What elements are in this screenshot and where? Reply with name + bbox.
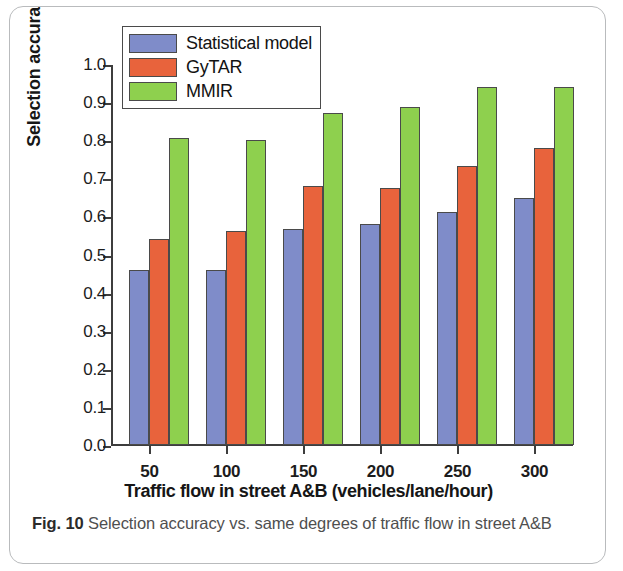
- figure-number: Fig. 10: [32, 514, 84, 532]
- x-axis-tick-label: 200: [367, 462, 394, 482]
- legend-item-label: GyTAR: [186, 57, 242, 78]
- y-axis-tick-label: 0.6: [83, 207, 106, 227]
- y-axis-tick-label: 0.0: [83, 436, 106, 456]
- bar-gytar-150: [303, 186, 323, 445]
- x-axis-tick-label: 100: [213, 462, 240, 482]
- chart-legend: Statistical modelGyTARMMIR: [122, 26, 321, 109]
- y-axis-tick-label: 0.9: [83, 93, 106, 113]
- figure-caption-text: Selection accuracy vs. same degrees of t…: [88, 514, 552, 532]
- y-axis-tick-label: 0.3: [83, 322, 106, 342]
- legend-swatch-icon: [129, 34, 177, 53]
- bar-mmir-200: [400, 107, 420, 445]
- bar-mmir-150: [323, 113, 343, 445]
- x-axis-tick-mark: [457, 446, 459, 454]
- x-axis-tick-label: 250: [444, 462, 471, 482]
- y-axis-tick-label: 0.8: [83, 131, 106, 151]
- bar-gytar-50: [149, 239, 169, 445]
- y-axis-tick-label: 0.7: [83, 169, 106, 189]
- y-axis-tick-label: 1.0: [83, 55, 106, 75]
- figure-frame: Selection accuracy 1.00.90.80.70.60.50.4…: [9, 6, 606, 564]
- figure-caption: Fig. 10 Selection accuracy vs. same degr…: [32, 512, 588, 536]
- bar-gytar-200: [380, 188, 400, 445]
- legend-swatch-icon: [129, 82, 177, 101]
- bar-gytar-300: [534, 148, 554, 445]
- plot-axes: 1.00.90.80.70.60.50.40.30.20.10.0 501001…: [111, 65, 573, 446]
- bar-statistical-model-100: [206, 270, 226, 445]
- y-axis-tick-label: 0.5: [83, 246, 106, 266]
- bar-mmir-50: [169, 138, 189, 445]
- y-axis-tick-label: 0.2: [83, 360, 106, 380]
- x-axis-tick-label: 300: [521, 462, 548, 482]
- chart-plot-region: Selection accuracy 1.00.90.80.70.60.50.4…: [10, 7, 606, 507]
- x-axis-tick-mark: [303, 446, 305, 454]
- legend-item-label: Statistical model: [186, 33, 312, 54]
- y-axis-line: [111, 65, 113, 446]
- legend-item-label: MMIR: [186, 81, 233, 102]
- legend-swatch-icon: [129, 58, 177, 77]
- x-axis-tick-label: 50: [140, 462, 158, 482]
- legend-item: Statistical model: [129, 31, 312, 55]
- x-axis-title: Traffic flow in street A&B (vehicles/lan…: [10, 481, 606, 502]
- x-axis-tick-mark: [380, 446, 382, 454]
- x-axis-tick-mark: [149, 446, 151, 454]
- y-axis-tick-label: 0.4: [83, 284, 106, 304]
- legend-item: MMIR: [129, 79, 312, 103]
- y-axis-title: Selection accuracy: [24, 6, 45, 167]
- bar-gytar-100: [226, 231, 246, 445]
- x-axis-tick-label: 150: [290, 462, 317, 482]
- bar-statistical-model-200: [360, 224, 380, 445]
- bar-mmir-300: [554, 87, 574, 445]
- legend-item: GyTAR: [129, 55, 312, 79]
- x-axis-tick-mark: [226, 446, 228, 454]
- bar-mmir-250: [477, 87, 497, 445]
- bar-statistical-model-250: [437, 212, 457, 445]
- bar-mmir-100: [246, 140, 266, 445]
- bar-statistical-model-50: [129, 270, 149, 445]
- bar-statistical-model-300: [514, 198, 534, 445]
- bar-statistical-model-150: [283, 229, 303, 445]
- x-axis-tick-mark: [534, 446, 536, 454]
- bar-gytar-250: [457, 166, 477, 445]
- y-axis-tick-label: 0.1: [83, 398, 106, 418]
